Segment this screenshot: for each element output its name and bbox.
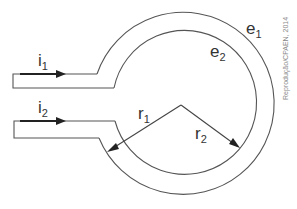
- diagram-canvas: i1 i2 e1 e2 r1 r2 Reprodução/CPAEN, 2014: [0, 0, 297, 209]
- label-r1: r1: [138, 105, 150, 125]
- radius-r2-line: [181, 105, 237, 146]
- inner-conductor-e2: [114, 30, 257, 174]
- r1-arrowhead-icon: [107, 143, 119, 152]
- lead-i2: [14, 121, 115, 138]
- lead-i1: [13, 74, 114, 88]
- label-i2: i2: [38, 99, 48, 119]
- label-e1: e1: [246, 20, 262, 40]
- r2-arrowhead-icon: [229, 138, 240, 148]
- label-r2: r2: [195, 125, 207, 145]
- label-e2: e2: [210, 43, 226, 63]
- image-credit: Reprodução/CPAEN, 2014: [282, 17, 289, 100]
- label-i1: i1: [38, 52, 48, 72]
